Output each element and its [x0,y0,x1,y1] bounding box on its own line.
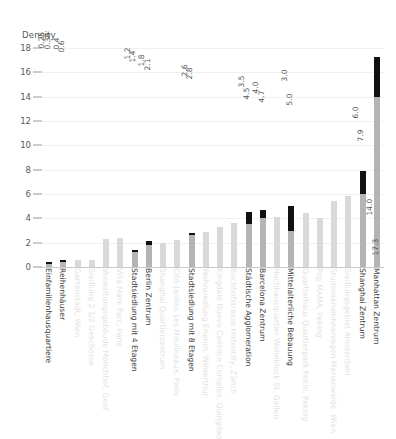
bar [103,48,109,267]
x-axis-category-label: Villa Mare Parc, Paris [116,268,124,347]
x-axis-category-label: Verwaltungsgebäude Mönchhof, Genf [102,268,110,410]
bar-value-label: 0.38 [43,33,51,50]
y-axis-tick-label: 2 [26,238,31,248]
x-axis-category-label: Gartenstadt, Wien [73,268,81,337]
x-axis-category-label: Shanghai Quartierzentrum [159,268,167,369]
bar-segment-high [260,210,266,219]
x-axis-category-label: Barcelona Zentrum [258,268,266,341]
x-axis-category-label: Buchhofstrasse Hafencity, Zürich [230,268,238,394]
bar-segment-high [189,233,195,235]
bar-segment-low [345,196,351,267]
bar-value-label: 2.1 [143,59,151,71]
bar [260,48,266,267]
bar [117,48,123,267]
bar-segment-high [246,212,252,224]
bar-segment-low [103,239,109,267]
y-axis-tick-mark [33,96,42,97]
y-axis-tick-label: 16 [20,67,31,77]
y-axis-tick-label: 12 [20,116,31,126]
bar-value-label: 4.5 [243,88,251,100]
x-axis-category-label: Quartierhaus Quartierpark Pekin, Peking [301,268,309,421]
bar-segment-low [231,223,237,267]
x-axis-category-label: Einfamilienhausquartiere [45,268,53,363]
x-axis-category-label: Stadtsiedlung mit 4 Etagen [130,268,138,372]
bar [89,48,95,267]
y-axis-tick-mark [33,194,42,195]
y-axis-tick-label: 8 [26,165,31,175]
bar-segment-high [60,260,66,262]
x-axis-category-label: Reihenhäuser [59,268,67,320]
bar-value-label: 7.9 [357,129,365,141]
bar-segment-high [360,171,366,194]
x-axis-category-label: Shanghai Zentrum [358,268,366,339]
y-axis-tick-label: 10 [20,140,31,150]
bar-segment-low [60,262,66,267]
x-axis-category-label: Manhattan Zentrum [372,268,380,344]
x-axis-category-label: Wohnsiedlung Erlenm, Winterthur [201,268,209,396]
bar-segment-low [317,218,323,267]
bar-segment-low [203,232,209,267]
bar [217,48,223,267]
bar [374,48,380,267]
bar-value-label: 14.0 [366,199,374,216]
bar-segment-low [246,224,252,267]
y-axis-tick-mark [33,218,42,219]
bar [174,48,180,267]
bar-value-label: 1.4 [129,50,137,62]
y-axis-tick-mark [33,145,42,146]
bar-segment-low [189,235,195,267]
bar [288,48,294,267]
x-axis-category-label: Siedlungsgebiet Amsterdam [344,268,352,375]
x-axis-category-label: Hochhausquartier Wohnblock St. Gallen [273,268,281,419]
bar-segment-low [288,231,294,268]
bar-segment-low [46,264,52,267]
bar-segment-low [274,217,280,267]
bar [60,48,66,267]
bar-segment-high [146,241,152,245]
bar-segment-low [260,218,266,267]
bar [132,48,138,267]
x-axis-category-label: Cité-Jardins Les Moulineaux, Paris [173,268,181,396]
bar-value-label: 3.5 [237,76,245,88]
x-axis-category-label: Städtische Agglomeration [244,268,252,366]
bar [146,48,152,267]
bar-segment-low [117,238,123,267]
bar [331,48,337,267]
bar-segment-high [288,206,294,230]
bar [317,48,323,267]
bar-segment-low [89,260,95,267]
x-axis-category-label: Kingdale Nuevo Centrico Complex, Quingda… [216,268,224,439]
x-axis-category-label: Studentenwohnanlagen Marienwalde, Wien [330,268,338,433]
x-axis-category-label: Mittelalterliche Bebauung [287,268,295,366]
y-axis-tick-label: 18 [20,43,31,53]
bar-segment-low [174,240,180,267]
bar-value-label: 5.0 [286,94,294,106]
y-axis-tick-label: 4 [26,213,31,223]
bar [46,48,52,267]
bar-value-label: 4.7 [257,90,265,102]
bar-value-label: 0.6 [58,40,66,52]
bar-value-label: 6.0 [351,106,359,118]
plot-area: 0246810121416180.250.380.40.61.21.41.82.… [42,48,384,267]
y-axis-tick-label: 6 [26,189,31,199]
y-axis-tick-mark [33,72,42,73]
bar [345,48,351,267]
y-axis-tick-label: 0 [26,262,31,272]
y-axis-tick-label: 14 [20,92,31,102]
bar [160,48,166,267]
bar-segment-low [75,260,81,267]
bar-segment-low [160,243,166,267]
x-axis-category-label: Siedlung 2 1/2 Geschosse [87,268,95,366]
bar-segment-high [374,57,380,97]
x-axis-label-group: EinfamilienhausquartiereReihenhäuserGart… [42,268,384,426]
bar-segment-low [303,213,309,267]
y-axis-tick-mark [33,169,42,170]
bar-segment-low [331,201,337,267]
bar-segment-low [132,252,138,267]
y-axis-tick-mark [33,121,42,122]
bar-segment-low [217,227,223,267]
bar-value-label: 2.8 [186,67,194,79]
x-axis-category-label: Pop MAMA, Peking [315,268,323,338]
bar [360,48,366,267]
